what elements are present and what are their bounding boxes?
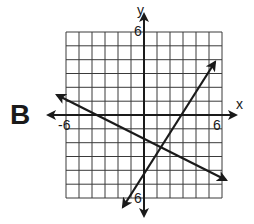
decreasing-line (57, 95, 226, 180)
y-axis-label: y (137, 3, 144, 17)
coordinate-graph (0, 0, 254, 224)
panel-label: B (10, 101, 30, 129)
axes (48, 14, 236, 216)
tick-label-y-max: 6 (134, 24, 142, 38)
tick-label-x-min: -6 (58, 118, 70, 132)
tick-label-y-min: 6 (134, 191, 142, 205)
x-axis-label: x (236, 97, 243, 111)
tick-label-x-max: 6 (213, 118, 221, 132)
plotted-lines (57, 62, 226, 207)
